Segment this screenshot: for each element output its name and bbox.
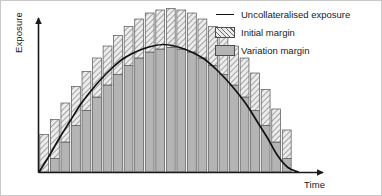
- chart-legend: Uncollateralised exposure Initial margin…: [215, 6, 379, 60]
- y-axis-label: Exposure: [13, 0, 24, 66]
- bar-segment-variation-margin: [93, 97, 102, 172]
- bar-segment-variation-margin: [187, 52, 196, 172]
- bar-segment-variation-margin: [71, 126, 80, 173]
- bar-segment-variation-margin: [156, 49, 165, 172]
- legend-item-initial-margin: Initial margin: [215, 24, 379, 40]
- bar-segment-variation-margin: [240, 97, 249, 172]
- bar-segment-initial-margin: [251, 73, 260, 111]
- legend-item-label: Uncollateralised exposure: [241, 9, 350, 20]
- bar-segment-initial-margin: [261, 90, 270, 126]
- legend-item-label: Variation margin: [241, 45, 309, 56]
- bar-segment-initial-margin: [93, 58, 102, 97]
- bar-segment-variation-margin: [261, 126, 270, 173]
- bar-segment-variation-margin: [124, 66, 133, 173]
- bar-segment-initial-margin: [240, 58, 249, 97]
- bar-segment-variation-margin: [103, 85, 112, 172]
- bar-segment-variation-margin: [82, 111, 91, 173]
- bar-segment-initial-margin: [282, 130, 291, 159]
- line-swatch-icon: [215, 9, 235, 20]
- bar-segment-variation-margin: [198, 58, 207, 172]
- bar-segment-variation-margin: [209, 66, 218, 173]
- bar-segment-initial-margin: [187, 13, 196, 52]
- bar-segment-initial-margin: [177, 10, 186, 49]
- bar-segment-initial-margin: [40, 135, 49, 173]
- bar-segment-variation-margin: [219, 75, 228, 173]
- solid-box-swatch-icon: [215, 45, 235, 56]
- x-axis-label: Time: [304, 179, 325, 190]
- legend-item-label: Initial margin: [241, 27, 295, 38]
- bar-segment-initial-margin: [198, 19, 207, 58]
- bar-segment-initial-margin: [272, 109, 281, 142]
- bar-segment-initial-margin: [166, 9, 175, 48]
- legend-item-variation-margin: Variation margin: [215, 42, 379, 58]
- bar-segment-variation-margin: [50, 159, 59, 173]
- bar-segment-variation-margin: [61, 142, 70, 172]
- bar-segment-initial-margin: [156, 10, 165, 49]
- bar-segment-variation-margin: [177, 49, 186, 172]
- bar-segment-variation-margin: [114, 75, 123, 173]
- bar-segment-variation-margin: [145, 52, 154, 172]
- legend-item-uncollateralised-exposure: Uncollateralised exposure: [215, 6, 379, 22]
- bar-segment-variation-margin: [135, 58, 144, 172]
- bar-segment-initial-margin: [103, 46, 112, 85]
- exposure-profile-chart: Exposure Time Uncollateralised exposure …: [0, 0, 382, 196]
- bar-segment-variation-margin: [166, 48, 175, 173]
- bar-segment-initial-margin: [114, 36, 123, 75]
- bar-segment-variation-margin: [230, 85, 239, 172]
- bar-segment-initial-margin: [82, 72, 91, 111]
- bar-segment-initial-margin: [124, 27, 133, 66]
- hatched-box-swatch-icon: [215, 27, 235, 38]
- bar-segment-variation-margin: [282, 159, 291, 173]
